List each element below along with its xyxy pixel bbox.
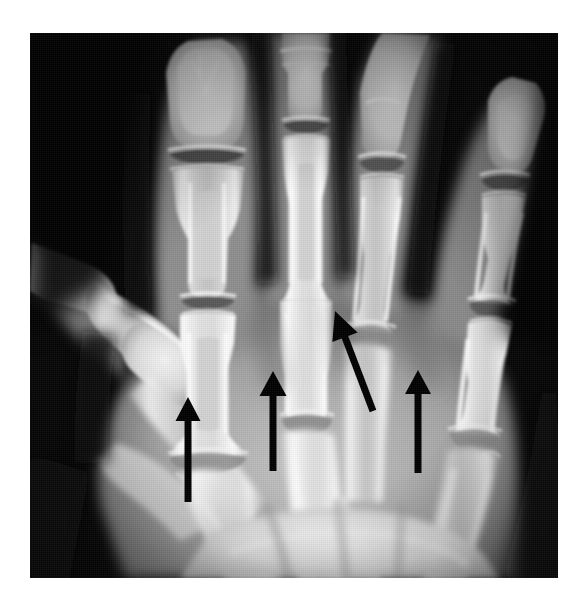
page-root bbox=[0, 0, 583, 611]
radiograph-canvas bbox=[30, 33, 558, 578]
radiograph-image bbox=[30, 33, 558, 578]
